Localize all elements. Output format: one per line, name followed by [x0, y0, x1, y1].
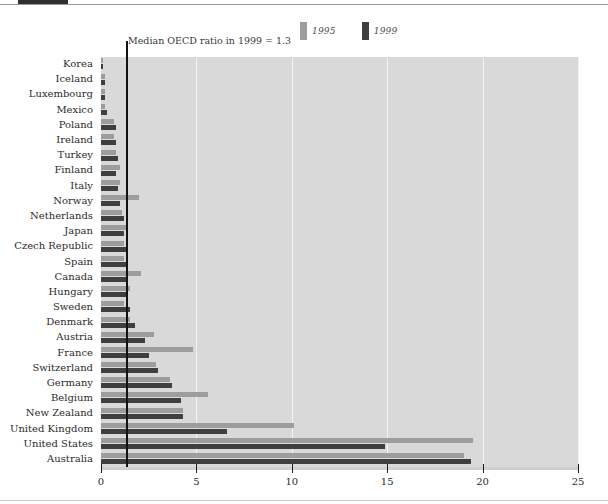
bar-1999	[101, 247, 126, 252]
chart-legend: 1995 1999	[300, 20, 397, 42]
x-tick-20	[483, 464, 484, 473]
y-axis-label-luxembourg: Luxembourg	[29, 89, 93, 99]
legend-swatch-1999	[362, 22, 369, 40]
x-tick-0	[101, 464, 102, 473]
bar-1995	[101, 74, 105, 79]
x-tick-label-20: 20	[476, 476, 489, 487]
bar-1999	[101, 64, 103, 69]
bar-1995	[101, 195, 139, 200]
y-axis-label-hungary: Hungary	[49, 287, 93, 297]
y-axis-label-belgium: Belgium	[51, 393, 93, 403]
y-axis-label-iceland: Iceland	[56, 74, 93, 84]
median-reference-line	[126, 41, 128, 467]
y-axis-label-korea: Korea	[63, 59, 93, 69]
y-axis-label-mexico: Mexico	[56, 105, 93, 115]
gridline-25	[578, 57, 579, 467]
x-tick-label-0: 0	[98, 476, 104, 487]
bar-1999	[101, 201, 120, 206]
bar-1995	[101, 134, 114, 139]
y-axis-label-czech-republic: Czech Republic	[14, 241, 93, 251]
y-axis-label-finland: Finland	[54, 165, 93, 175]
bar-1995	[101, 241, 124, 246]
bar-1999	[101, 444, 385, 449]
y-axis-label-united-states: United States	[24, 439, 93, 449]
bar-row	[101, 347, 578, 362]
bar-1995	[101, 377, 170, 382]
bar-1995	[101, 408, 183, 413]
bar-1999	[101, 156, 118, 161]
y-axis-label-norway: Norway	[53, 196, 93, 206]
bar-1995	[101, 362, 156, 367]
bar-1995	[101, 210, 122, 215]
page-top-rule	[0, 4, 608, 5]
bar-1995	[101, 438, 473, 443]
bar-1995	[101, 150, 116, 155]
chart-plot-area	[101, 57, 578, 467]
bar-1995	[101, 256, 124, 261]
y-axis-label-france: France	[57, 348, 93, 358]
y-axis-label-japan: Japan	[64, 226, 93, 236]
bar-row	[101, 332, 578, 347]
page-bottom-rule	[0, 500, 608, 501]
bar-row	[101, 58, 578, 73]
y-axis-label-turkey: Turkey	[57, 150, 93, 160]
legend-item-1995: 1995	[300, 22, 336, 40]
y-axis-label-australia: Australia	[47, 454, 93, 464]
bar-row	[101, 241, 578, 256]
bar-row	[101, 195, 578, 210]
y-axis-label-austria: Austria	[56, 332, 93, 342]
x-tick-label-15: 15	[381, 476, 394, 487]
bar-1999	[101, 216, 124, 221]
bar-row	[101, 286, 578, 301]
median-annotation-label: Median OECD ratio in 1999 = 1.3	[128, 35, 291, 46]
legend-item-1999: 1999	[362, 22, 398, 40]
y-axis-label-sweden: Sweden	[53, 302, 93, 312]
y-axis-label-ireland: Ireland	[56, 135, 93, 145]
y-axis-label-netherlands: Netherlands	[30, 211, 93, 221]
bar-row	[101, 180, 578, 195]
bar-1999	[101, 429, 227, 434]
bar-1999	[101, 110, 107, 115]
bar-1999	[101, 186, 118, 191]
bar-row	[101, 392, 578, 407]
bar-1999	[101, 95, 105, 100]
bar-row	[101, 165, 578, 180]
bar-row	[101, 377, 578, 392]
y-axis-label-poland: Poland	[59, 120, 93, 130]
bar-row	[101, 438, 578, 453]
y-axis-label-united-kingdom: United Kingdom	[10, 424, 93, 434]
bar-row	[101, 225, 578, 240]
bar-1995	[101, 392, 208, 397]
legend-label-1995: 1995	[312, 26, 336, 36]
x-tick-label-10: 10	[285, 476, 298, 487]
bar-1995	[101, 301, 124, 306]
bar-1995	[101, 89, 105, 94]
y-axis-label-new-zealand: New Zealand	[26, 408, 93, 418]
bar-1999	[101, 140, 116, 145]
y-axis-label-switzerland: Switzerland	[32, 363, 93, 373]
y-axis-label-canada: Canada	[55, 272, 93, 282]
bar-1995	[101, 225, 128, 230]
x-tick-25	[578, 464, 579, 473]
bar-1999	[101, 398, 181, 403]
x-tick-15	[387, 464, 388, 473]
y-axis-label-italy: Italy	[70, 181, 93, 191]
bar-1995	[101, 119, 114, 124]
bar-1995	[101, 453, 464, 458]
bar-1995	[101, 423, 294, 428]
bar-row	[101, 89, 578, 104]
bar-row	[101, 74, 578, 89]
bar-row	[101, 256, 578, 271]
bar-1999	[101, 368, 158, 373]
y-axis-category-labels: KoreaIcelandLuxembourgMexicoPolandIrelan…	[0, 57, 97, 467]
bar-row	[101, 423, 578, 438]
bar-row	[101, 362, 578, 377]
x-tick-5	[196, 464, 197, 473]
bar-1995	[101, 347, 193, 352]
x-tick-10	[292, 464, 293, 473]
bar-1999	[101, 459, 471, 464]
bar-1999	[101, 338, 145, 343]
legend-label-1999: 1999	[374, 26, 398, 36]
legend-swatch-1995	[300, 22, 307, 40]
bar-1995	[101, 180, 120, 185]
